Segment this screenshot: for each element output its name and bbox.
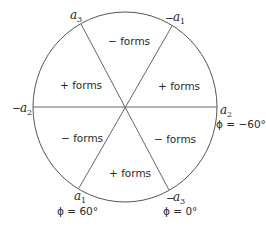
axis-label-neg-a2: − a 2 <box>12 101 32 117</box>
axis-label-a2: a 2 <box>220 103 232 119</box>
sector-label-lower-right: − forms <box>154 133 196 145</box>
phi-label-a2: ϕ = −60° <box>216 118 266 130</box>
svg-text:3: 3 <box>77 15 82 24</box>
svg-text:1: 1 <box>81 196 86 205</box>
axis-label-neg-a3: − a 3 <box>166 190 185 206</box>
svg-text:2: 2 <box>27 108 32 117</box>
sector-label-lower-left: − forms <box>61 132 103 144</box>
axis-label-neg-a1: − a 1 <box>165 10 185 26</box>
sector-label-upper-left: + forms <box>60 79 102 91</box>
axis-label-a1: a 1 <box>74 189 86 205</box>
sector-label-top: − forms <box>108 35 150 47</box>
sector-label-bottom: + forms <box>109 167 151 179</box>
axis-label-a3: a 3 <box>70 8 82 24</box>
phi-label-a1: ϕ = 60° <box>57 205 98 217</box>
phi-label-neg-a3: ϕ = 0° <box>163 205 197 217</box>
forms-circle-diagram: − forms + forms − forms + forms − forms … <box>0 0 266 229</box>
sector-label-upper-right: + forms <box>158 80 200 92</box>
svg-text:1: 1 <box>180 17 185 26</box>
